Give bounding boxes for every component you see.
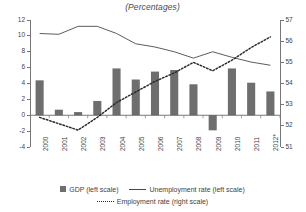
left-axis-tick	[27, 99, 30, 100]
left-axis-label: 0	[4, 112, 25, 119]
right-axis-label: 52	[286, 122, 306, 129]
plot-svg	[30, 20, 280, 147]
left-axis-tick	[27, 147, 30, 148]
plot-area	[30, 20, 280, 147]
left-axis-label: -4	[4, 144, 25, 151]
legend-item-unemployment[interactable]: Unemployment rate (left scale)	[129, 186, 244, 193]
chart-title: (Percentages)	[0, 2, 305, 12]
x-axis-label: 2001	[62, 137, 69, 151]
legend-row-2: Employment rate (right scale)	[0, 195, 305, 207]
x-axis-label: 2005	[139, 137, 146, 151]
x-axis-label: 2006	[158, 137, 165, 151]
gdp-bar	[113, 68, 121, 115]
gdp-bar	[266, 91, 274, 115]
x-axis-label: 2004	[120, 137, 127, 151]
gdp-bar	[228, 68, 236, 115]
x-axis-label: 2011	[254, 137, 261, 151]
x-axis-label: 2003	[100, 137, 107, 151]
right-axis-tick	[281, 125, 284, 126]
left-axis-tick	[27, 67, 30, 68]
gdp-bar	[247, 83, 255, 116]
right-axis-tick	[281, 20, 284, 21]
legend-row-1: GDP (left scale) Unemployment rate (left…	[0, 183, 305, 195]
legend-item-employment[interactable]: Employment rate (right scale)	[97, 198, 208, 205]
solid-line-swatch-icon	[129, 189, 146, 190]
right-axis-tick	[281, 147, 284, 148]
left-axis-label: 12	[4, 17, 25, 24]
right-axis-label: 56	[286, 38, 306, 45]
right-axis-tick	[281, 83, 284, 84]
x-axis-label: 2012*	[273, 134, 280, 151]
left-axis-tick	[27, 131, 30, 132]
gdp-bar	[170, 70, 178, 115]
left-axis-tick	[27, 51, 30, 52]
gdp-bar	[93, 101, 101, 115]
right-axis-tick	[281, 62, 284, 63]
gdp-bar	[74, 112, 82, 115]
legend-label-employment: Employment rate (right scale)	[117, 198, 208, 205]
left-axis-label: 4	[4, 80, 25, 87]
right-axis-tick	[281, 104, 284, 105]
left-axis-tick	[27, 20, 30, 21]
dotted-line-swatch-icon	[97, 201, 114, 202]
bar-swatch-icon	[60, 186, 66, 192]
x-axis-label: 2000	[43, 137, 50, 151]
right-axis-label: 57	[286, 17, 306, 24]
left-axis-label: 10	[4, 32, 25, 39]
left-axis-tick	[27, 35, 30, 36]
gdp-bar	[151, 72, 159, 116]
left-axis-tick	[27, 115, 30, 116]
left-axis-label: 6	[4, 64, 25, 71]
gdp-bar	[189, 84, 197, 115]
legend-label-gdp: GDP (left scale)	[69, 186, 118, 193]
right-axis-tick	[281, 41, 284, 42]
legend-item-gdp[interactable]: GDP (left scale)	[60, 186, 118, 193]
left-axis-tick	[27, 83, 30, 84]
right-axis-label: 53	[286, 101, 306, 108]
x-axis-label: 2007	[177, 137, 184, 151]
gdp-bar	[55, 110, 63, 116]
right-axis-label: 55	[286, 59, 306, 66]
left-axis-label: -2	[4, 128, 25, 135]
chart-container: (Percentages) 121086420-2-4 575655545352…	[0, 0, 305, 212]
gdp-bar	[36, 80, 44, 115]
left-axis-label: 2	[4, 96, 25, 103]
right-axis-label: 51	[286, 144, 306, 151]
right-axis-label: 54	[286, 80, 306, 87]
gdp-bar	[132, 80, 140, 116]
left-axis-label: 8	[4, 48, 25, 55]
legend-label-unemployment: Unemployment rate (left scale)	[149, 186, 244, 193]
x-axis-label: 2010	[235, 137, 242, 151]
x-axis-label: 2002	[81, 137, 88, 151]
chart-legend: GDP (left scale) Unemployment rate (left…	[0, 183, 305, 207]
gdp-bar	[209, 115, 217, 130]
x-axis-label: 2009	[216, 137, 223, 151]
unemployment-rate-line	[40, 26, 271, 65]
x-axis-label: 2008	[196, 137, 203, 151]
